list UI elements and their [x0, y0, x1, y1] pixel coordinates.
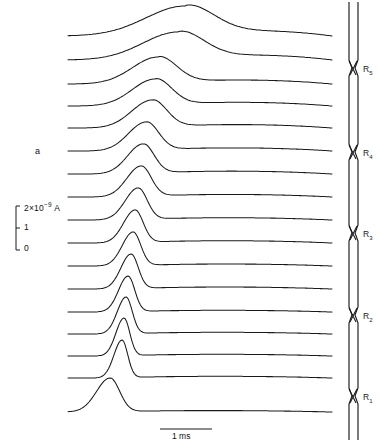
node-label-group: R5R4R3R2R1	[363, 64, 373, 404]
node-label-r1: R1	[363, 392, 373, 404]
current-scale-bar	[16, 206, 20, 250]
node-label-r2: R2	[363, 311, 373, 323]
panel-label-a: a	[35, 146, 40, 156]
scale-label-top: 2×10−9 A	[24, 201, 60, 213]
trace-line	[68, 188, 332, 220]
trace-line	[68, 297, 332, 334]
trace-line	[68, 378, 332, 412]
time-scale-label: 1 ms	[172, 431, 190, 441]
trace-line	[68, 57, 332, 85]
figure-panel: R5R4R3R2R1 a 2×10−9 A 1 0 1 ms	[0, 0, 380, 442]
nerve-fibre-diagram	[349, 2, 358, 440]
scale-label-bottom: 0	[24, 243, 29, 253]
trace-line	[68, 276, 332, 312]
node-label-r5: R5	[363, 64, 373, 76]
trace-line	[68, 318, 332, 356]
scale-label-mid: 1	[24, 222, 29, 232]
trace-line	[68, 232, 332, 266]
node-label-r3: R3	[363, 229, 373, 241]
scale-label-top-exponent: −9	[44, 201, 52, 208]
trace-line	[68, 166, 332, 197]
scale-label-top-unit: A	[54, 203, 60, 213]
trace-line	[68, 254, 332, 289]
scale-label-top-mantissa: 2×10	[24, 203, 44, 213]
current-traces-plot: R5R4R3R2R1	[0, 0, 380, 442]
node-label-r4: R4	[363, 148, 373, 160]
trace-line	[68, 210, 332, 243]
trace-line	[68, 31, 332, 60]
trace-line	[68, 5, 332, 36]
trace-line	[68, 340, 332, 378]
trace-line	[68, 79, 332, 106]
